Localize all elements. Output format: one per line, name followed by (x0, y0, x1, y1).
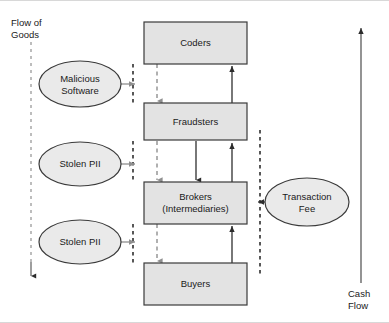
diagram-canvas: Coders Fraudsters Brokers (Intermediarie… (0, 0, 389, 323)
box-fraudsters[interactable] (144, 103, 247, 140)
ellipse-stolen-pii-2[interactable] (39, 220, 121, 264)
box-brokers[interactable] (144, 182, 247, 224)
ellipse-stolen-pii-1[interactable] (39, 142, 121, 186)
diagram-vector-layer (0, 0, 389, 323)
ellipse-malicious-software[interactable] (39, 61, 121, 107)
axis-label-cash-flow: Cash Flow (348, 288, 370, 311)
box-coders[interactable] (144, 22, 247, 64)
box-buyers[interactable] (144, 263, 247, 305)
axis-label-flow-of-goods: Flow of Goods (11, 17, 42, 40)
ellipse-transaction-fee[interactable] (265, 178, 349, 226)
